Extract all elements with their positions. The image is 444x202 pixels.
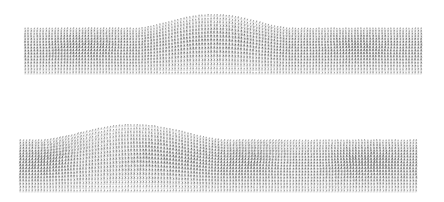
lower-quiver-panel xyxy=(0,101,444,202)
quiver-figure xyxy=(0,0,444,202)
lower-quiver-plot xyxy=(0,101,444,202)
upper-quiver-plot xyxy=(0,0,444,101)
upper-quiver-panel xyxy=(0,0,444,101)
